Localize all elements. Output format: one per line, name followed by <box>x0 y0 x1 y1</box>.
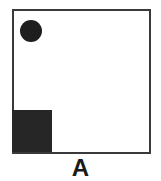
filled-square <box>12 110 52 152</box>
figure-label: A <box>0 155 161 181</box>
filled-circle <box>20 20 42 42</box>
